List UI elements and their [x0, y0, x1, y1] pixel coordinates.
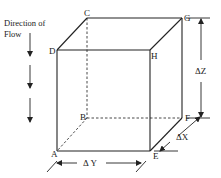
- vertex-label-H: H: [151, 51, 158, 61]
- cube-diagram: Direction of Flow C D G H B F A E: [0, 0, 221, 178]
- dy-tick-left: [47, 161, 57, 172]
- hidden-edges: [57, 18, 182, 151]
- edge-BA: [57, 118, 87, 151]
- vertex-label-B: B: [80, 112, 86, 122]
- flow-label-line2: Flow: [4, 29, 22, 39]
- dimension-dx: ΔX: [154, 117, 200, 151]
- dx-label: ΔX: [176, 132, 189, 142]
- flow-label-line1: Direction of: [4, 18, 45, 28]
- dy-label: Δ Y: [83, 158, 98, 168]
- dz-label: ΔZ: [195, 66, 206, 76]
- dx-arrow-down-icon: [160, 142, 170, 151]
- vertex-label-A: A: [51, 149, 58, 159]
- vertex-label-C: C: [84, 8, 90, 18]
- vertex-label-D: D: [49, 46, 56, 56]
- dimension-dz: ΔZ: [186, 18, 210, 118]
- edge-CD: [57, 18, 87, 50]
- vertex-label-E: E: [153, 151, 159, 161]
- visible-edges: [57, 18, 182, 151]
- edge-GH: [150, 18, 182, 50]
- dimension-dy: Δ Y: [47, 158, 146, 172]
